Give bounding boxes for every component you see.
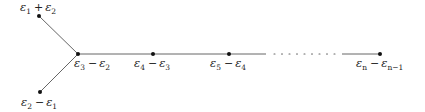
label-n1: ε1+ε2	[20, 0, 56, 16]
edge-n2-n3	[40, 54, 78, 92]
dynkin-diagram: ε1+ε2 ε2−ε1 ε3−ε2 ε4−ε3 ε5−ε4 εn−εn−1	[0, 0, 425, 112]
node-n5	[227, 52, 231, 56]
node-n1	[37, 14, 41, 18]
label-n5: ε5−ε4	[210, 56, 246, 72]
label-n6: εn−εn−1	[356, 56, 403, 72]
node-n4	[151, 52, 155, 56]
edge-n1-n3	[39, 16, 78, 54]
node-n2	[38, 90, 42, 94]
label-n3: ε3−ε2	[74, 56, 110, 72]
label-n2: ε2−ε1	[21, 95, 57, 111]
label-n4: ε4−ε3	[134, 56, 170, 72]
